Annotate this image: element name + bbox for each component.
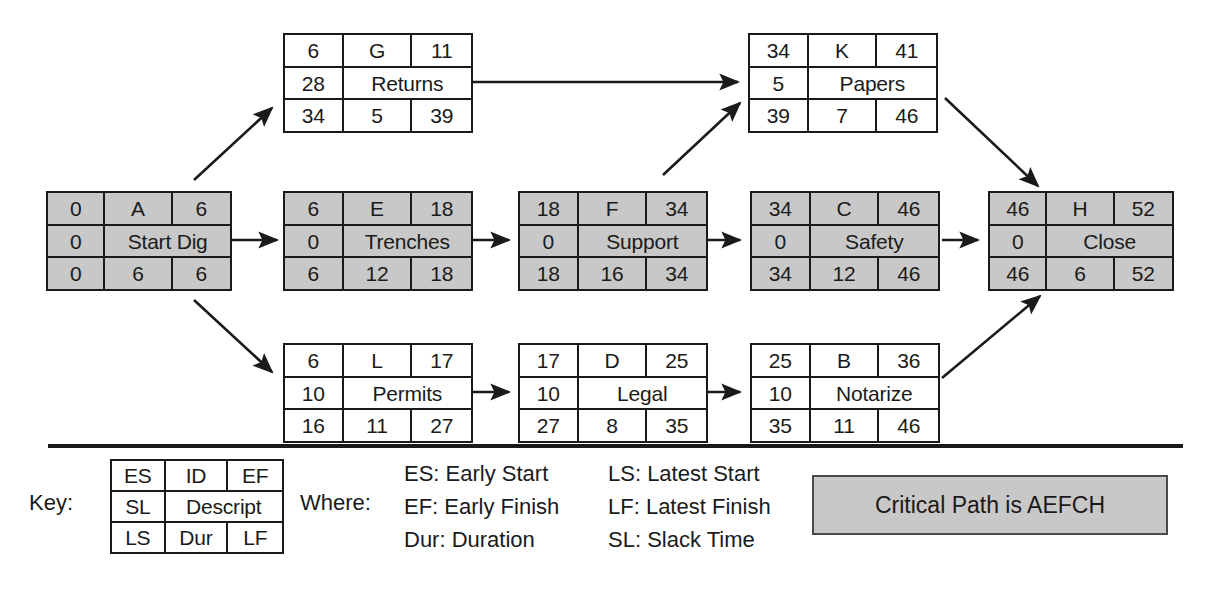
node-lf: 52 <box>1115 258 1172 289</box>
node-lf: 46 <box>877 100 936 131</box>
node-es: 18 <box>520 193 579 224</box>
where-label: Where: <box>300 492 371 514</box>
node-ls: 18 <box>520 258 579 289</box>
node-row-mid: 0 Safety <box>752 226 938 259</box>
node-row-top: 25 B 36 <box>752 345 938 378</box>
node-id: H <box>1047 193 1114 224</box>
node-descript: Returns <box>344 68 471 99</box>
key-id: ID <box>166 461 229 490</box>
node-ls: 6 <box>285 258 344 289</box>
node-lf: 6 <box>173 258 230 289</box>
key-lf: LF <box>228 523 282 552</box>
key-row-mid: SL Descript <box>112 492 282 523</box>
activity-node-k[interactable]: 34 K 41 5 Papers 39 7 46 <box>748 33 938 133</box>
node-id: A <box>105 193 172 224</box>
key-descript: Descript <box>166 492 282 521</box>
node-lf: 46 <box>879 258 938 289</box>
key-dur: Dur <box>166 523 229 552</box>
where-line: LS: Latest Start <box>608 463 771 485</box>
key-ef: EF <box>228 461 282 490</box>
key-row-top: ES ID EF <box>112 461 282 492</box>
node-row-mid: 0 Support <box>520 226 706 259</box>
activity-node-f[interactable]: 18 F 34 0 Support 18 16 34 <box>518 191 708 291</box>
node-id: K <box>809 35 878 66</box>
where-line: LF: Latest Finish <box>608 496 771 518</box>
node-row-mid: 10 Legal <box>520 378 706 411</box>
activity-node-c[interactable]: 34 C 46 0 Safety 34 12 46 <box>750 191 940 291</box>
node-descript: Safety <box>811 226 938 257</box>
activity-node-d[interactable]: 17 D 25 10 Legal 27 8 35 <box>518 343 708 443</box>
node-row-top: 46 H 52 <box>990 193 1172 226</box>
node-ef: 17 <box>412 345 471 376</box>
activity-node-e[interactable]: 6 E 18 0 Trenches 6 12 18 <box>283 191 473 291</box>
node-row-mid: 10 Notarize <box>752 378 938 411</box>
node-lf: 46 <box>879 410 938 441</box>
node-row-bottom: 34 12 46 <box>752 258 938 289</box>
node-ef: 41 <box>877 35 936 66</box>
node-id: E <box>344 193 413 224</box>
edge-a-to-l <box>194 300 272 372</box>
node-row-top: 17 D 25 <box>520 345 706 378</box>
edge-a-to-g <box>194 108 272 180</box>
node-es: 34 <box>752 193 811 224</box>
activity-node-g[interactable]: 6 G 11 28 Returns 34 5 39 <box>283 33 473 133</box>
node-lf: 35 <box>647 410 706 441</box>
edge-k-to-h <box>945 98 1038 186</box>
node-ef: 18 <box>412 193 471 224</box>
where-line: SL: Slack Time <box>608 529 771 551</box>
node-es: 17 <box>520 345 579 376</box>
node-dur: 6 <box>1047 258 1114 289</box>
node-ef: 11 <box>412 35 471 66</box>
node-descript: Legal <box>579 378 706 409</box>
node-row-top: 0 A 6 <box>48 193 230 226</box>
where-line: EF: Early Finish <box>404 496 559 518</box>
node-dur: 6 <box>105 258 172 289</box>
node-ls: 34 <box>752 258 811 289</box>
edge-f-to-k <box>663 103 740 175</box>
node-sl: 28 <box>285 68 344 99</box>
where-column-1: ES: Early Start EF: Early Finish Dur: Du… <box>404 463 559 551</box>
node-sl: 10 <box>285 378 344 409</box>
node-ls: 46 <box>990 258 1047 289</box>
activity-node-a[interactable]: 0 A 6 0 Start Dig 0 6 6 <box>46 191 232 291</box>
activity-node-b[interactable]: 25 B 36 10 Notarize 35 11 46 <box>750 343 940 443</box>
key-row-bottom: LS Dur LF <box>112 523 282 552</box>
node-descript: Support <box>579 226 706 257</box>
key-es: ES <box>112 461 166 490</box>
activity-node-l[interactable]: 6 L 17 10 Permits 16 11 27 <box>283 343 473 443</box>
node-lf: 34 <box>647 258 706 289</box>
node-row-top: 34 K 41 <box>750 35 936 68</box>
critical-path-callout: Critical Path is AEFCH <box>812 475 1168 535</box>
node-ls: 0 <box>48 258 105 289</box>
node-row-mid: 0 Start Dig <box>48 226 230 259</box>
where-line: Dur: Duration <box>404 529 559 551</box>
node-descript: Close <box>1047 226 1172 257</box>
node-id: B <box>811 345 880 376</box>
node-id: G <box>344 35 413 66</box>
node-row-mid: 0 Trenches <box>285 226 471 259</box>
node-descript: Start Dig <box>105 226 230 257</box>
node-row-bottom: 46 6 52 <box>990 258 1172 289</box>
node-es: 6 <box>285 345 344 376</box>
node-row-top: 6 L 17 <box>285 345 471 378</box>
activity-node-h[interactable]: 46 H 52 0 Close 46 6 52 <box>988 191 1174 291</box>
node-ls: 35 <box>752 410 811 441</box>
node-row-top: 34 C 46 <box>752 193 938 226</box>
node-row-bottom: 34 5 39 <box>285 100 471 131</box>
node-row-bottom: 39 7 46 <box>750 100 936 131</box>
node-id: F <box>579 193 648 224</box>
node-lf: 27 <box>412 410 471 441</box>
node-es: 6 <box>285 193 344 224</box>
key-sl: SL <box>112 492 166 521</box>
node-dur: 11 <box>344 410 413 441</box>
node-ef: 36 <box>879 345 938 376</box>
node-row-bottom: 6 12 18 <box>285 258 471 289</box>
node-lf: 39 <box>412 100 471 131</box>
node-row-bottom: 35 11 46 <box>752 410 938 441</box>
node-row-top: 6 E 18 <box>285 193 471 226</box>
node-dur: 5 <box>344 100 413 131</box>
node-ls: 34 <box>285 100 344 131</box>
node-row-mid: 0 Close <box>990 226 1172 259</box>
node-es: 46 <box>990 193 1047 224</box>
node-ef: 34 <box>647 193 706 224</box>
